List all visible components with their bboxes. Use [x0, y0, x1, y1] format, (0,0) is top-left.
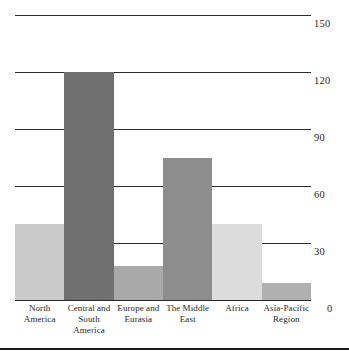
x-axis-tick-label: The MiddleEast [163, 303, 212, 325]
x-axis-tick-label-line: Europe and [114, 303, 163, 314]
x-axis-tick-label-line: Region [262, 314, 311, 325]
bar [262, 283, 311, 300]
bar-series [15, 0, 311, 300]
x-axis-tick-label-line: The Middle [163, 303, 212, 314]
y-axis-tick-label: 120 [314, 75, 346, 87]
x-axis-tick-label: Europe andEurasia [114, 303, 163, 325]
x-axis-tick-label-line: Central and [64, 303, 113, 314]
x-axis-tick-label: Central andSouth America [64, 303, 113, 336]
x-axis-tick-label-line: South America [64, 314, 113, 336]
y-axis-zero-label: 0 [327, 303, 332, 315]
x-axis-tick-label: Asia-PacificRegion [262, 303, 311, 325]
y-axis-tick-label: 90 [314, 132, 346, 144]
y-axis-tick-label: 150 [314, 18, 346, 30]
page-bottom-rule [0, 348, 349, 350]
bar-chart-figure: 306090120150 NorthAmericaCentral andSout… [0, 0, 349, 352]
bar [15, 224, 64, 300]
x-axis-baseline [15, 300, 311, 301]
x-axis-tick-label-line: North [15, 303, 64, 314]
x-axis-tick-label: NorthAmerica [15, 303, 64, 325]
plot-area: 306090120150 NorthAmericaCentral andSout… [0, 0, 349, 352]
bar [163, 158, 212, 301]
x-axis-tick-labels: NorthAmericaCentral andSouth AmericaEuro… [15, 303, 311, 343]
x-axis-tick-label-line: America [15, 314, 64, 325]
x-axis-tick-label: Africa [212, 303, 261, 314]
x-axis-tick-label-line: Eurasia [114, 314, 163, 325]
bar [212, 224, 261, 300]
x-axis-tick-label-line: Asia-Pacific [262, 303, 311, 314]
y-axis-tick-label: 60 [314, 189, 346, 201]
x-axis-tick-label-line: East [163, 314, 212, 325]
bar [114, 266, 163, 300]
x-axis-tick-label-line: Africa [212, 303, 261, 314]
y-axis-tick-label: 30 [314, 246, 346, 258]
bar [64, 72, 113, 300]
